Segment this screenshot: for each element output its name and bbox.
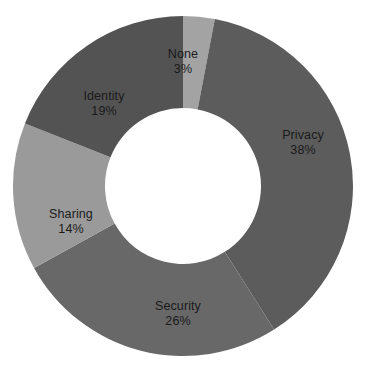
donut-chart: None3%Privacy38%Security26%Sharing14%Ide…: [0, 0, 367, 375]
donut-slice-group: [13, 16, 353, 356]
donut-chart-svg: [0, 0, 367, 375]
